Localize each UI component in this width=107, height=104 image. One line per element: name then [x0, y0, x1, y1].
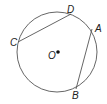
label-b: B [72, 90, 79, 101]
chord-cd [18, 14, 71, 42]
chord-ab [76, 29, 92, 89]
label-c: C [10, 37, 18, 48]
label-d: D [67, 4, 74, 15]
label-o: O [48, 50, 56, 61]
circle-diagram: D C A B O [0, 0, 107, 104]
center-point-o [56, 50, 60, 54]
label-a: A [94, 23, 102, 34]
